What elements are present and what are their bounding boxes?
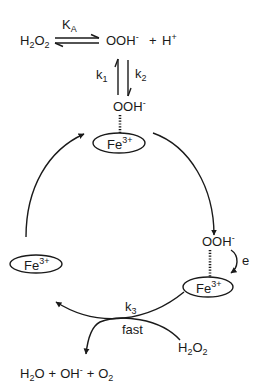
product-hydroperoxide: OOH-: [106, 32, 139, 48]
right-ligand-ooh: OOH-: [202, 233, 235, 249]
reaction-cycle-diagram: H2O2 KA OOH- + H+ k1 k2 OOH- Fe3+: [0, 0, 257, 392]
left-iron-label: Fe3+: [24, 256, 49, 273]
top-iron-label: Fe3+: [107, 135, 132, 152]
binding-equilibrium: k1 k2: [96, 59, 147, 96]
rate-constant-k3: k3: [125, 299, 137, 316]
equilibrium-arrows-icon: [55, 35, 99, 47]
acid-dissociation-equilibrium: H2O2 KA OOH- + H+: [20, 17, 177, 50]
decomposition-step: k3 fast H2O2 H2O+OH-+O2: [20, 292, 208, 383]
electron-transfer-arrow: [231, 250, 237, 273]
decomposition-products: H2O+OH-+O2: [20, 365, 113, 383]
product-proton: H+: [162, 32, 177, 48]
right-iron-hydroperoxo-complex: OOH- e Fe3+: [183, 233, 249, 297]
cycle-arrow-left: [26, 134, 84, 237]
rate-constant-k1: k1: [96, 67, 108, 84]
k3-return-arrow: [56, 292, 184, 319]
left-iron-complex: Fe3+: [10, 255, 62, 273]
fast-label: fast: [122, 322, 143, 337]
top-ligand-ooh: OOH-: [113, 98, 146, 114]
top-iron-hydroperoxo-complex: OOH- Fe3+: [93, 98, 146, 153]
right-iron-label: Fe3+: [196, 279, 221, 296]
rate-constant-k2: k2: [135, 66, 147, 83]
reagent-h2o2: H2O2: [178, 340, 208, 357]
electron-label: e: [242, 253, 249, 268]
plus-sign: +: [149, 33, 157, 48]
equilibrium-constant-ka: KA: [62, 17, 77, 34]
binding-arrows-icon: [115, 59, 131, 96]
cycle-arrow-right: [153, 133, 214, 235]
reactant-h2o2: H2O2: [20, 33, 50, 50]
